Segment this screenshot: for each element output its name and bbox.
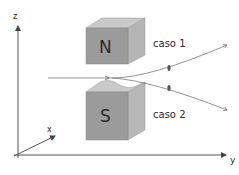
case-1-label: caso 1 <box>153 38 186 49</box>
magnet-south-label: S <box>100 106 111 126</box>
magnet-north: N <box>86 18 145 64</box>
detector-mark-1 <box>167 65 170 71</box>
y-axis-label: y <box>230 155 236 165</box>
magnet-south-side <box>128 82 145 140</box>
magnet-south: S <box>86 80 145 140</box>
z-axis-label: z <box>13 12 17 21</box>
x-axis-label: x <box>47 125 52 134</box>
x-axis <box>14 136 55 156</box>
detector-mark-2 <box>167 85 170 91</box>
magnetic-deflection-diagram: z x y N S caso 1 caso 2 <box>0 0 239 175</box>
case-2-label: caso 2 <box>153 109 186 120</box>
magnet-north-label: N <box>99 37 112 57</box>
